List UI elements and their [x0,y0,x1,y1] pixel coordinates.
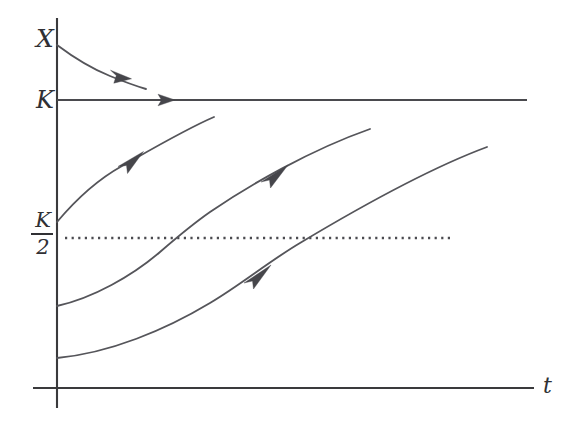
y-axis-label: X [36,26,54,51]
curve-sigmoid-2-arrow-icon [261,165,288,188]
half-capacity-label: K 2 [31,209,55,258]
curve-sigmoid-1-arrow-icon [118,152,144,174]
curve-sigmoid-2 [57,129,370,306]
plot-canvas [0,0,572,424]
curve-decaying-above-k [57,45,146,89]
half-capacity-numerator: K [31,209,55,232]
x-axis-label: t [543,375,552,397]
curve-sigmoid-1 [57,117,214,222]
half-capacity-denominator: 2 [31,236,55,259]
logistic-growth-figure: X K K 2 t [0,0,572,424]
carrying-capacity-label: K [36,88,54,112]
